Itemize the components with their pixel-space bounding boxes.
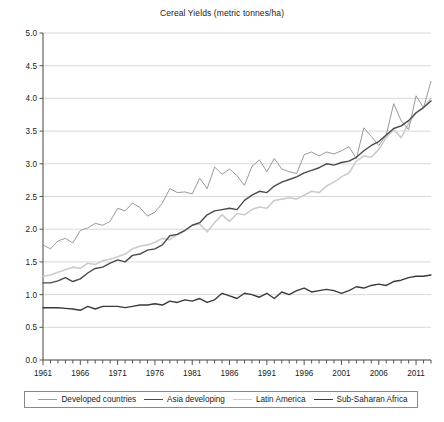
legend-item: Sub-Saharan Africa xyxy=(308,395,410,404)
svg-text:1986: 1986 xyxy=(220,369,239,378)
legend-item: Developed countries xyxy=(32,395,138,404)
plot-area: 0.00.51.01.52.02.53.03.54.04.55.0 196119… xyxy=(0,0,444,422)
svg-text:1966: 1966 xyxy=(71,369,90,378)
legend-item: Latin America xyxy=(227,395,308,404)
svg-text:1991: 1991 xyxy=(258,369,277,378)
x-axis-ticks: 1961196619711976198119861991199620012006… xyxy=(34,360,431,378)
legend-item-label: Asia developing xyxy=(167,395,225,404)
cereal-yields-chart: Cereal Yields (metric tonnes/ha) 0.00.51… xyxy=(0,0,444,422)
svg-text:1996: 1996 xyxy=(295,369,314,378)
legend-item-label: Sub-Saharan Africa xyxy=(337,395,408,404)
svg-text:2001: 2001 xyxy=(332,369,351,378)
legend-swatch-line-icon xyxy=(233,399,252,400)
chart-legend: Developed countriesAsia developingLatin … xyxy=(24,391,418,408)
legend-item: Asia developing xyxy=(138,395,227,404)
svg-text:0.5: 0.5 xyxy=(26,323,38,332)
legend-swatch-line-icon xyxy=(144,399,163,400)
svg-text:2.5: 2.5 xyxy=(26,193,38,202)
svg-text:3.5: 3.5 xyxy=(26,127,38,136)
svg-text:1961: 1961 xyxy=(34,369,53,378)
gridlines xyxy=(43,33,431,360)
legend-swatch-line-icon xyxy=(314,399,333,400)
y-axis-ticks: 0.00.51.01.52.02.53.03.54.04.55.0 xyxy=(26,29,43,365)
svg-text:4.5: 4.5 xyxy=(26,62,38,71)
svg-text:0.0: 0.0 xyxy=(26,356,38,365)
svg-text:1976: 1976 xyxy=(146,369,165,378)
svg-text:2.0: 2.0 xyxy=(26,225,38,234)
svg-text:1971: 1971 xyxy=(109,369,128,378)
svg-text:1981: 1981 xyxy=(183,369,202,378)
legend-swatch-line-icon xyxy=(38,399,57,400)
svg-text:2006: 2006 xyxy=(370,369,389,378)
svg-text:4.0: 4.0 xyxy=(26,94,38,103)
svg-text:5.0: 5.0 xyxy=(26,29,38,38)
svg-text:1.0: 1.0 xyxy=(26,291,38,300)
svg-text:1.5: 1.5 xyxy=(26,258,38,267)
svg-text:2011: 2011 xyxy=(407,369,425,378)
svg-text:3.0: 3.0 xyxy=(26,160,38,169)
legend-item-label: Developed countries xyxy=(61,395,136,404)
legend-item-label: Latin America xyxy=(256,395,306,404)
series-lines xyxy=(43,81,431,310)
